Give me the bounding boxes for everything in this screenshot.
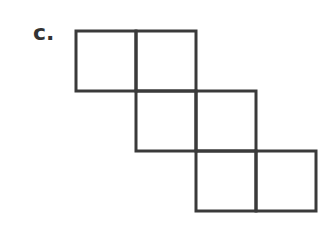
square-cell xyxy=(256,151,316,211)
square-cell xyxy=(136,91,196,151)
square-cell xyxy=(196,151,256,211)
square-cell xyxy=(76,31,136,91)
square-cell xyxy=(136,31,196,91)
square-cell xyxy=(196,91,256,151)
square-net-diagram xyxy=(0,0,331,226)
